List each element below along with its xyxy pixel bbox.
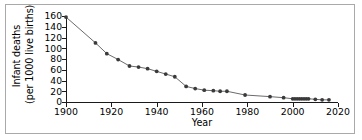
data-point	[155, 69, 159, 73]
data-point	[137, 65, 141, 69]
data-point	[225, 89, 229, 93]
data-point	[313, 97, 317, 101]
data-point	[282, 96, 286, 100]
data-point	[128, 64, 132, 68]
data-point	[218, 89, 222, 93]
data-point	[94, 41, 98, 45]
data-point	[327, 98, 331, 102]
data-point	[164, 72, 168, 76]
data-point	[116, 58, 120, 62]
series-line	[66, 17, 329, 100]
data-point	[64, 15, 68, 19]
data-point	[105, 52, 109, 56]
data-point	[307, 97, 311, 101]
data-point	[268, 95, 272, 99]
data-point	[243, 93, 247, 97]
data-point	[173, 75, 177, 79]
data-point	[184, 85, 188, 89]
x-axis-title: Year	[66, 117, 338, 128]
data-point	[211, 89, 215, 93]
data-point	[202, 88, 206, 92]
data-point	[320, 98, 324, 102]
data-point	[193, 87, 197, 91]
chart-figure: Infant deaths (per 1000 live births) 020…	[0, 0, 362, 140]
data-point	[146, 67, 150, 71]
